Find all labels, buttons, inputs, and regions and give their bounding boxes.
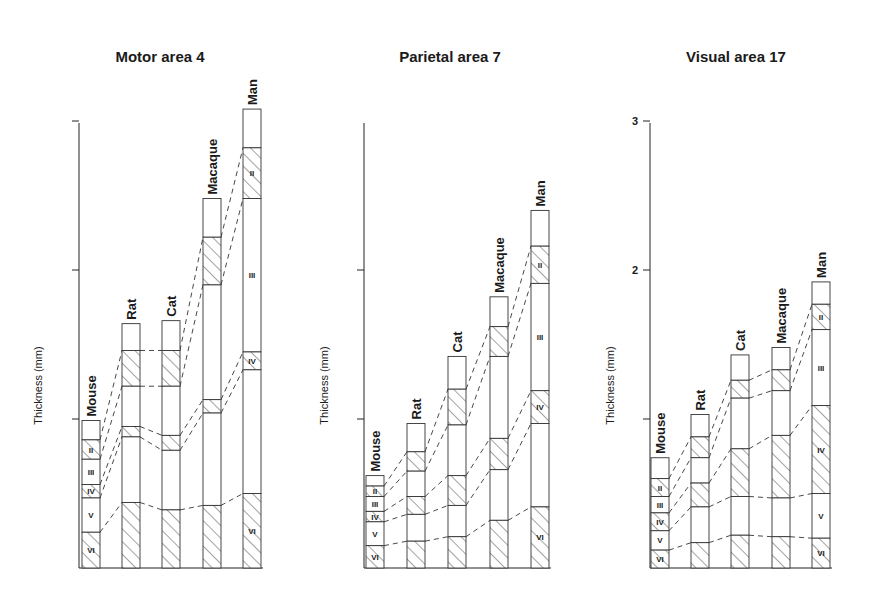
layer-label: VI	[87, 546, 95, 555]
layer-label: II	[373, 487, 377, 496]
layer-iv-segment	[691, 483, 709, 507]
layer-i-segment	[162, 321, 180, 351]
species-label: Man	[533, 180, 548, 206]
layer-connector	[140, 426, 162, 435]
species-label: Rat	[124, 298, 139, 320]
species-label: Cat	[164, 295, 179, 317]
layer-iii-segment	[203, 285, 221, 400]
layer-vi-segment	[407, 541, 425, 568]
layer-connector	[425, 505, 448, 514]
layer-connector	[180, 285, 203, 386]
layer-iii-segment	[772, 391, 790, 436]
layer-label: VI	[656, 555, 664, 564]
layer-iii-segment	[162, 386, 180, 435]
layer-label: IV	[371, 513, 379, 522]
layer-iv-segment	[407, 496, 425, 514]
layer-v-segment	[691, 507, 709, 543]
layer-label: III	[249, 271, 256, 280]
layer-connector	[466, 438, 490, 475]
layer-connector	[669, 543, 691, 550]
layer-connector	[466, 520, 490, 536]
layer-label: VI	[817, 549, 825, 558]
layer-i-segment	[651, 458, 669, 479]
layer-iv-segment	[490, 438, 508, 469]
layer-vi-segment	[122, 502, 140, 568]
layer-vi-segment	[731, 535, 749, 568]
layer-connector	[221, 198, 243, 284]
layer-label: V	[372, 530, 378, 539]
species-label: Macaque	[205, 139, 220, 195]
layer-label: IV	[817, 446, 825, 455]
column-man: IIIIIIVVIMan	[531, 180, 549, 568]
layer-connector	[790, 406, 812, 436]
layer-connector	[749, 435, 772, 448]
column-man: IIIIIIVVVIMan	[812, 252, 830, 568]
layer-vi-segment	[691, 543, 709, 568]
layer-label: II	[89, 446, 93, 455]
layer-label: VI	[248, 527, 256, 536]
layer-connector	[790, 304, 812, 370]
layer-connector	[180, 505, 203, 509]
layer-label: VI	[371, 553, 379, 562]
layer-i-segment	[691, 415, 709, 437]
layer-connector	[221, 494, 243, 506]
layer-connector	[180, 400, 203, 436]
layer-iv-segment	[772, 435, 790, 498]
layer-connector	[140, 437, 162, 450]
layer-i-segment	[82, 420, 100, 439]
species-label: Rat	[409, 398, 424, 420]
layer-connector	[709, 535, 731, 542]
layer-ii-segment	[407, 452, 425, 471]
layer-connector	[221, 352, 243, 400]
layer-v-segment	[162, 450, 180, 510]
layer-vi-segment	[448, 537, 466, 568]
layer-connector	[384, 452, 407, 486]
layer-label: III	[537, 333, 544, 342]
column-rat: Rat	[691, 389, 709, 568]
layer-connector	[749, 391, 772, 398]
y-axis-label: Thickness (mm)	[318, 346, 330, 424]
layer-iv-segment	[731, 449, 749, 497]
layer-label: IV	[656, 518, 664, 527]
layer-connector	[100, 350, 122, 439]
layer-connector	[100, 386, 122, 459]
layer-i-segment	[812, 282, 830, 304]
layer-connector	[384, 514, 407, 521]
layer-iii-segment	[122, 386, 140, 426]
column-rat: Rat	[407, 398, 425, 568]
y-tick-label: 3	[632, 115, 638, 127]
species-label: Man	[814, 252, 829, 278]
column-cat: Cat	[448, 331, 466, 568]
layer-iii-segment	[731, 398, 749, 449]
layer-label: IV	[248, 357, 256, 366]
layer-vi-segment	[203, 505, 221, 568]
species-label: Macaque	[774, 288, 789, 344]
species-label: Mouse	[368, 430, 383, 471]
layer-label: III	[372, 500, 379, 509]
layer-ii-segment	[122, 350, 140, 386]
layer-i-segment	[772, 347, 790, 369]
layer-connector	[221, 370, 243, 413]
layer-label: V	[88, 511, 94, 520]
layer-connector	[749, 496, 772, 497]
layer-label: III	[88, 468, 95, 477]
layer-ii-segment	[162, 350, 180, 386]
layer-i-segment	[366, 476, 384, 486]
layer-iv-segment	[122, 426, 140, 436]
layer-connector	[384, 541, 407, 545]
layer-v-segment	[203, 413, 221, 505]
layer-ii-segment	[490, 327, 508, 357]
layer-i-segment	[122, 324, 140, 351]
layer-connector	[669, 437, 691, 479]
layer-iv-segment	[448, 476, 466, 506]
layer-connector	[425, 537, 448, 541]
y-axis-label: Thickness (mm)	[32, 346, 44, 424]
column-mouse: IIIIIIVVVIMouse	[366, 430, 384, 568]
column-rat: Rat	[122, 298, 140, 568]
species-label: Rat	[693, 389, 708, 411]
layer-connector	[140, 502, 162, 509]
layer-connector	[508, 423, 531, 469]
layer-i-segment	[448, 356, 466, 389]
layer-connector	[709, 449, 731, 483]
layer-connector	[466, 356, 490, 425]
